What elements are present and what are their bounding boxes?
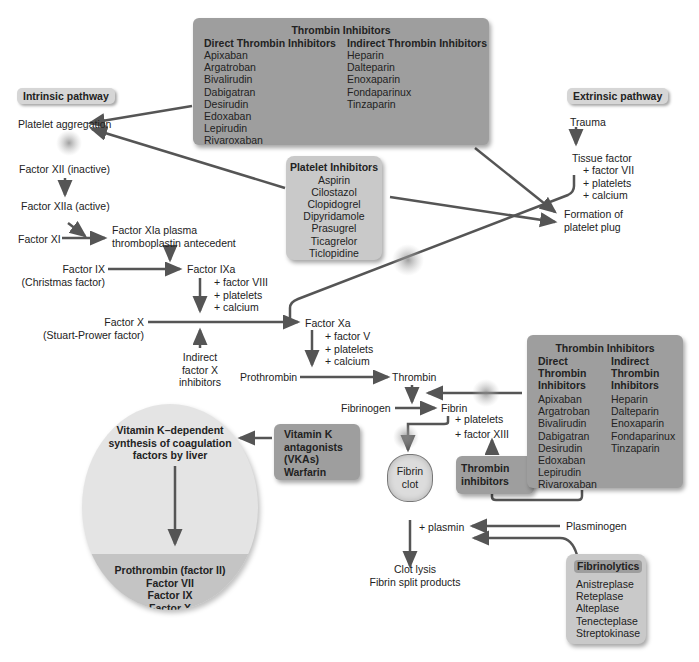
list-item: Bivalirudin [538, 417, 597, 429]
list-item: Enoxaparin [611, 417, 675, 429]
indirect-header: Indirect Thrombin Inhibitors [347, 37, 487, 50]
platelet-aggregation: Platelet aggregation [18, 118, 111, 131]
trauma: Trauma [570, 116, 606, 129]
vka-box: Vitamin K antagonists (VKAs) Warfarin [274, 424, 360, 480]
list-item: Dalteparin [347, 61, 411, 73]
thrombin-inhibitors-right-box: Thrombin Inhibitors Direct Thrombin Inhi… [527, 335, 683, 488]
fibrin-cofactors: + platelets + factor XIII [455, 413, 509, 440]
liver-synthesis-oval: Vitamin K–dependent synthesis of coagula… [82, 404, 258, 610]
thrombin-inhibitors-small-box: Thrombin inhibitors [456, 456, 534, 494]
indirect-header: Indirect Thrombin Inhibitors [611, 355, 659, 391]
list-item: Reteplase [576, 590, 640, 602]
list-item: Streptokinase [576, 627, 640, 639]
list-item: Alteplase [576, 602, 640, 614]
thrombin: Thrombin [392, 371, 436, 384]
list-item: Dabigatran [204, 86, 263, 98]
fibrinolytics-box: Fibrinolytics Anistreplase Reteplase Alt… [566, 554, 646, 644]
box-title: Thrombin Inhibitors [527, 342, 683, 355]
indirect-factor-x-inhibitors: Indirect factor X inhibitors [170, 351, 230, 389]
platelet-plug: Formation of platelet plug [564, 208, 623, 233]
platelet-inhibitor-list: Aspirin Cilostazol Clopidogrel Dipyridam… [286, 174, 382, 259]
list-item: Ticagrelor [286, 235, 382, 247]
list-item: Anistreplase [576, 578, 640, 590]
fibrin-clot: Fibrin clot [387, 454, 433, 502]
factor-x: Factor X (Stuart-Prower factor) [0, 316, 144, 341]
factor-ixa: Factor IXa [187, 263, 235, 276]
plasminogen: Plasminogen [566, 520, 627, 533]
list-item: Enoxaparin [347, 73, 411, 85]
tissue-factor-cofactors: + factor VII + platelets + calcium [583, 164, 634, 202]
list-item: Aspirin [286, 174, 382, 186]
extrinsic-pathway-label: Extrinsic pathway [567, 88, 668, 104]
box-title: Thrombin Inhibitors [193, 24, 489, 37]
fibrinogen: Fibrinogen [341, 402, 391, 415]
intrinsic-pathway-label: Intrinsic pathway [17, 88, 115, 104]
direct-header: Direct Thrombin Inhibitors [538, 355, 586, 391]
list-item: Apixaban [204, 49, 263, 61]
list-item: Tenecteplase [576, 615, 640, 627]
liver-factors: Prothrombin (factor II) Factor VII Facto… [82, 564, 258, 610]
list-item: Apixaban [538, 393, 597, 405]
prothrombin: Prothrombin [240, 371, 297, 384]
list-item: Argatroban [204, 61, 263, 73]
list-item: Rivaroxaban [204, 134, 263, 146]
list-item: Ticlopidine [286, 247, 382, 259]
list-item: Heparin [347, 49, 411, 61]
list-item: Bivalirudin [204, 73, 263, 85]
factor-xiia: Factor XIIa (active) [21, 200, 110, 213]
factor-xia: Factor XIa plasma thromboplastin anteced… [112, 224, 236, 249]
indirect-list: Heparin Dalteparin Enoxaparin Fondaparin… [611, 393, 675, 454]
fibrinolytic-list: Anistreplase Reteplase Alteplase Tenecte… [576, 578, 640, 639]
list-item: Dipyridamole [286, 210, 382, 222]
thrombin-inhibitors-top-box: Thrombin Inhibitors Direct Thrombin Inhi… [193, 18, 489, 145]
indirect-list: Heparin Dalteparin Enoxaparin Fondaparin… [347, 49, 411, 110]
factor-xa-cofactors: + factor V + platelets + calcium [325, 330, 373, 368]
factor-xii: Factor XII (inactive) [19, 163, 110, 176]
direct-list: Apixaban Argatroban Bivalirudin Dabigatr… [204, 49, 263, 147]
list-item: Desirudin [538, 442, 597, 454]
factor-ix: Factor IX (Christmas factor) [0, 263, 105, 288]
list-item: Rivaroxaban [538, 478, 597, 490]
list-item: Argatroban [538, 405, 597, 417]
list-item: Edoxaban [538, 454, 597, 466]
clot-lysis: Clot lysis Fibrin split products [360, 563, 470, 588]
list-item: Fondaparinux [347, 86, 411, 98]
box-title: Platelet Inhibitors [286, 161, 382, 174]
direct-header: Direct Thrombin Inhibitors [204, 37, 336, 50]
list-item: Prasugrel [286, 222, 382, 234]
list-item: Tinzaparin [611, 442, 675, 454]
plasmin: + plasmin [419, 521, 464, 534]
list-item: Lepirudin [538, 466, 597, 478]
list-item: Clopidogrel [286, 198, 382, 210]
tissue-factor: Tissue factor [572, 152, 632, 165]
factor-xi: Factor XI [18, 233, 61, 246]
list-item: Edoxaban [204, 110, 263, 122]
list-item: Heparin [611, 393, 675, 405]
platelet-inhibitors-box: Platelet Inhibitors Aspirin Cilostazol C… [286, 156, 382, 260]
list-item: Desirudin [204, 98, 263, 110]
list-item: Dabigatran [538, 430, 597, 442]
factor-ixa-cofactors: + factor VIII + platelets + calcium [214, 276, 268, 314]
box-title: Fibrinolytics [574, 560, 642, 573]
list-item: Fondaparinux [611, 430, 675, 442]
list-item: Cilostazol [286, 186, 382, 198]
factor-xa: Factor Xa [305, 317, 351, 330]
direct-list: Apixaban Argatroban Bivalirudin Dabigatr… [538, 393, 597, 491]
list-item: Lepirudin [204, 122, 263, 134]
list-item: Dalteparin [611, 405, 675, 417]
list-item: Tinzaparin [347, 98, 411, 110]
